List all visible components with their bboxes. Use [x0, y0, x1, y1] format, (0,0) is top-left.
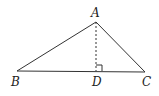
- label-a: A: [90, 6, 100, 20]
- right-angle-mark-icon: [96, 65, 102, 71]
- segment-bc: [17, 71, 145, 72]
- segment-ac: [96, 22, 145, 72]
- label-c: C: [142, 75, 151, 89]
- label-b: B: [10, 75, 20, 89]
- label-d: D: [91, 75, 102, 89]
- triangle-diagram: A B D C: [0, 0, 159, 96]
- segment-ab: [17, 22, 96, 71]
